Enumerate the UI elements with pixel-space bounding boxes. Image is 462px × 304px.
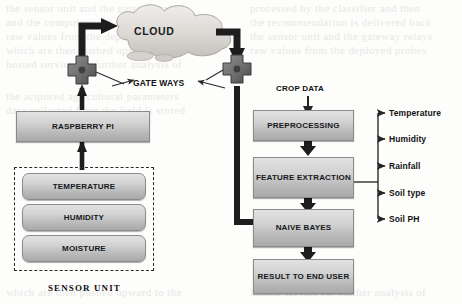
stage-feature-extraction-box[interactable]: FEATURE EXTRACTION	[253, 157, 354, 198]
stage-preprocessing-label: PREPROCESSING	[267, 121, 339, 131]
feature-humidity-label: Humidity	[389, 134, 426, 144]
sensor-humidity-label: HUMIDITY	[64, 213, 104, 223]
feature-soil-type-label: Soil type	[389, 188, 425, 198]
uplink-arrow-left	[82, 18, 118, 57]
sensor-temperature-box[interactable]: TEMPERATURE	[22, 173, 146, 200]
stage-feature-extraction-label: FEATURE EXTRACTION	[256, 173, 351, 183]
feature-rainfall-label: Rainfall	[389, 161, 421, 171]
crop-data-label: CROP DATA	[276, 84, 324, 93]
stage-preprocessing-box[interactable]: PREPROCESSING	[253, 110, 354, 141]
diagram-canvas: the sensor unit and the gateway relays a…	[0, 0, 462, 304]
gateway-node-left	[68, 56, 96, 84]
sensor-humidity-box[interactable]: HUMIDITY	[22, 204, 146, 231]
feature-output-branches	[352, 113, 385, 219]
sensor-unit-caption: SENSOR UNIT	[48, 283, 121, 293]
sensor-moisture-label: MOISTURE	[62, 244, 106, 254]
feature-soil-ph-label: Soil PH	[389, 214, 419, 224]
stage-naive-bayes-label: NAIVE BAYES	[276, 223, 332, 233]
cloud-label: CLOUD	[134, 25, 174, 37]
gateways-label: GATE WAYS	[133, 78, 184, 88]
stage-result-label: RESULT TO END USER	[258, 272, 350, 282]
raspberry-pi-box[interactable]: RASPBERRY PI	[16, 111, 150, 142]
gateway-node-right	[223, 55, 251, 83]
stage-naive-bayes-box[interactable]: NAIVE BAYES	[253, 209, 354, 247]
sensor-temperature-label: TEMPERATURE	[53, 182, 116, 192]
raspberry-pi-label: RASPBERRY PI	[52, 122, 114, 132]
sensor-moisture-box[interactable]: MOISTURE	[22, 235, 146, 262]
stage-result-box[interactable]: RESULT TO END USER	[253, 259, 354, 294]
feature-temperature-label: Temperature	[389, 108, 441, 118]
